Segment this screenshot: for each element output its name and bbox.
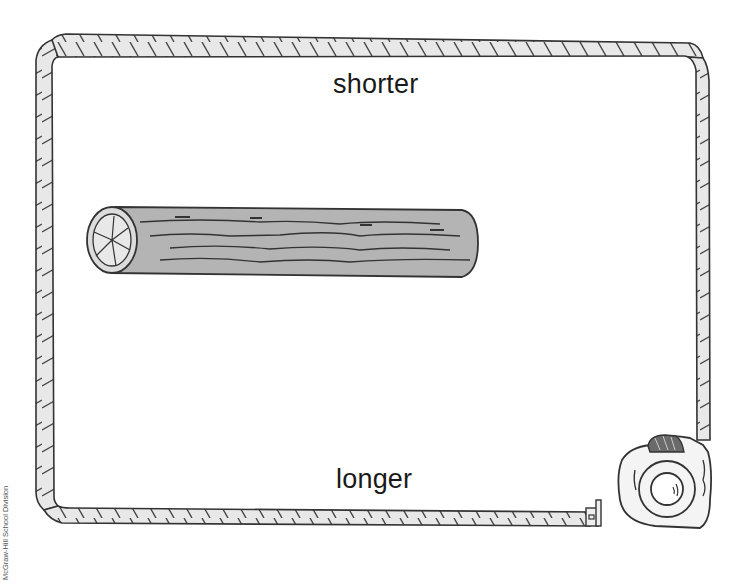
publisher-credit: McGraw-Hill School Division xyxy=(1,486,10,580)
tape-measure-case xyxy=(618,435,711,528)
longer-label: longer xyxy=(336,464,412,495)
measuring-tape-border xyxy=(36,34,710,526)
shorter-label: shorter xyxy=(333,69,418,100)
worksheet-illustration: shorter longer McGraw-Hill School Divisi… xyxy=(0,0,751,585)
log xyxy=(87,207,478,277)
